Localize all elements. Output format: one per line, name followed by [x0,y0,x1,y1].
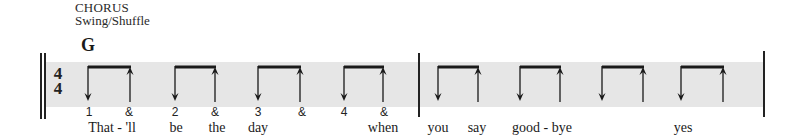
beat-count: 4 [341,106,348,119]
strum-group [678,66,727,102]
strum-group [85,66,134,102]
lyric-word: you [428,120,449,135]
strum-group [255,66,304,102]
strum-pattern [0,0,798,137]
lyric-word: day [248,120,268,135]
beat-count: 1 [86,106,93,119]
strum-group [435,66,482,102]
beat-count: 3 [255,106,262,119]
lyric-word: yes [674,120,693,135]
lyric-word: be [169,120,182,135]
strum-group [172,66,219,102]
lyric-word: when [368,120,398,135]
beat-count: & [211,106,219,119]
lyric-word: the [208,120,225,135]
strum-group [341,66,387,102]
strum-group [517,66,564,102]
beat-count: & [298,106,306,119]
lyric-word: That - 'll [88,120,136,135]
beat-count: 2 [172,106,179,119]
lyric-word: say [468,120,487,135]
strum-group [599,66,647,102]
beat-count: & [380,106,388,119]
beat-count: & [125,106,133,119]
lyric-word: good - bye [512,120,572,135]
